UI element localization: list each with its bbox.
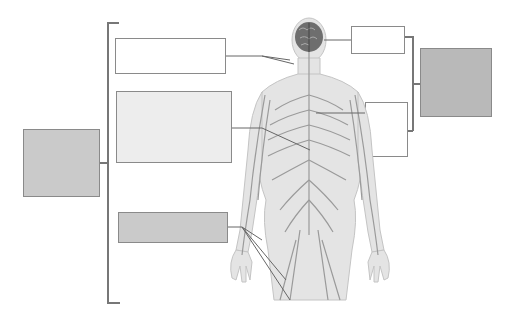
brain-icon [295,22,323,52]
nervous-system-figure [0,0,515,329]
